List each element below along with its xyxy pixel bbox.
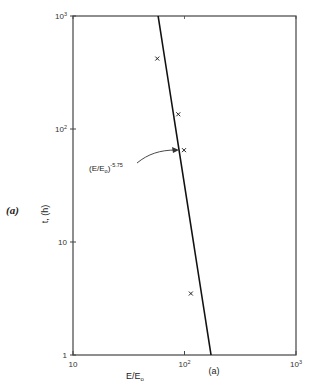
y-axis-label: t, (h) [40, 205, 50, 224]
y-tick-label: 1 [63, 351, 68, 360]
y-tick-label: 102 [55, 124, 67, 134]
series-layer [155, 16, 211, 355]
x-tick-label: 10 [69, 360, 78, 369]
annotation-label: (E/Eo)-5.75 [89, 162, 123, 174]
fit-line [158, 16, 211, 355]
data-point [155, 57, 159, 61]
data-point [176, 112, 180, 116]
chart: 10102103 110102103 (a) t, (h) E/Eo (a) (… [0, 0, 309, 391]
panel-label: (a) [6, 204, 19, 217]
x-tick-label: 103 [290, 359, 302, 369]
annotation: (E/Eo)-5.75 [89, 147, 179, 174]
x-axis-label-sub: o [141, 376, 145, 382]
subplot-caption: (a) [209, 366, 220, 376]
annotation-arrow [137, 150, 176, 163]
x-tick-label: 102 [179, 359, 191, 369]
y-tick-label: 10 [58, 238, 67, 247]
data-point [189, 292, 193, 296]
x-axis-label: E/Eo [126, 371, 145, 382]
x-axis-label-main: E/E [126, 371, 141, 381]
y-tick-label: 103 [55, 11, 67, 21]
data-point [182, 148, 186, 152]
